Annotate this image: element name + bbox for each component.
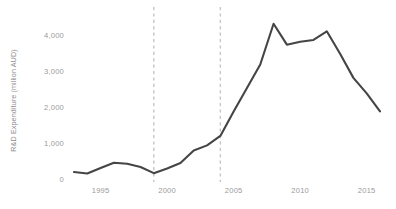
line-chart: 01,0002,0003,0004,000 199520002005201020… — [0, 0, 396, 209]
x-tick-label: 2000 — [144, 186, 190, 195]
x-tick-label: 2005 — [211, 186, 257, 195]
x-axis-tick-labels: 19952000200520102015 — [0, 0, 396, 209]
y-axis-title: R&D Expenditure (million AUD) — [9, 26, 18, 176]
x-tick-label: 2015 — [344, 186, 390, 195]
x-tick-label: 2010 — [277, 186, 323, 195]
x-tick-label: 1995 — [78, 186, 124, 195]
